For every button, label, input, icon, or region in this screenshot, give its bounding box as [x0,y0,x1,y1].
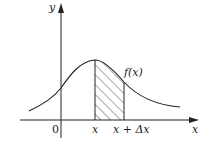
hatched-strip [95,60,124,120]
strip-right-label: x + Δx [113,123,150,136]
y-axis-label: y [48,1,56,14]
x-axis-label: x [192,123,199,136]
strip-left-label: x [92,123,99,136]
y-axis-arrow-icon [58,3,64,13]
diagram-canvas: y x 0 f(x) x x + Δx [0,0,211,142]
y-axis [58,3,64,138]
curve-label: f(x) [123,66,143,79]
origin-label: 0 [52,123,59,136]
